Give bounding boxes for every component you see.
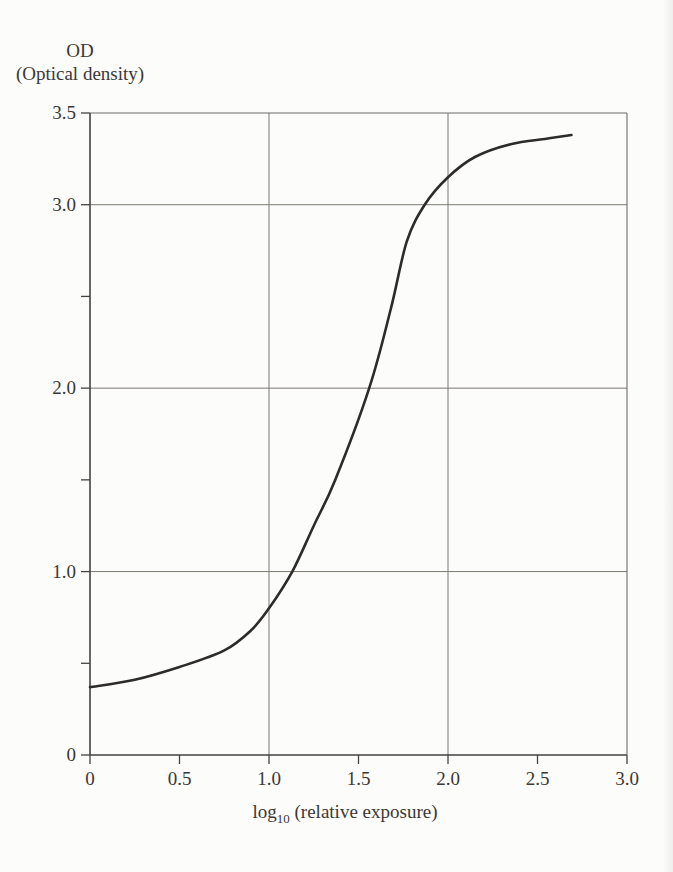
x-tick-label: 2.5 bbox=[526, 768, 550, 789]
axis-ticks bbox=[81, 113, 627, 764]
x-tick-label: 0 bbox=[85, 768, 95, 789]
y-tick-label: 3.5 bbox=[52, 102, 76, 123]
y-tick-label: 3.0 bbox=[52, 194, 76, 215]
x-tick-label: 0.5 bbox=[168, 768, 192, 789]
y-tick-label: 1.0 bbox=[52, 561, 76, 582]
y-tick-label: 0 bbox=[67, 744, 77, 765]
hd-curve-figure: OD (Optical density) 00.51.01.52.02.53.0… bbox=[0, 0, 673, 872]
x-axis-title-suffix: (relative exposure) bbox=[290, 801, 438, 823]
x-tick-label: 1.5 bbox=[347, 768, 371, 789]
x-axis-title-prefix: log bbox=[253, 801, 278, 822]
x-axis-title: log10 (relative exposure) bbox=[253, 801, 438, 826]
x-tick-label: 1.0 bbox=[257, 768, 281, 789]
chart-canvas: 00.51.01.52.02.53.001.02.03.03.5 log10 (… bbox=[0, 0, 673, 872]
plot-frame bbox=[90, 113, 627, 755]
y-tick-label: 2.0 bbox=[52, 377, 76, 398]
x-axis-title-subscript: 10 bbox=[277, 811, 290, 826]
gridlines bbox=[90, 113, 627, 755]
characteristic-curve bbox=[90, 135, 572, 687]
x-tick-label: 3.0 bbox=[615, 768, 639, 789]
x-tick-label: 2.0 bbox=[436, 768, 460, 789]
